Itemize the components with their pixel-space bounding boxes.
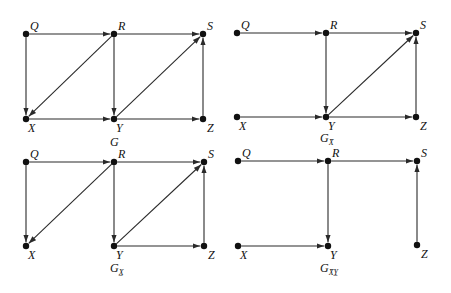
node-label-s: S <box>207 19 213 33</box>
node-s <box>200 31 206 37</box>
node-label-q: Q <box>242 146 251 160</box>
edge-r-to-x <box>29 164 112 243</box>
panel-title: GX̄Y̲ <box>320 261 340 277</box>
node-label-x: X <box>238 119 247 133</box>
node-label-y: Y <box>116 248 124 262</box>
node-label-z: Z <box>420 119 427 133</box>
node-s <box>413 30 419 36</box>
node-r <box>325 158 331 164</box>
node-label-z: Z <box>207 121 214 135</box>
edge-y-to-s <box>328 36 413 115</box>
node-q <box>235 158 241 164</box>
panel-g-xbaryunderline: QRSXYZGX̄Y̲ <box>235 146 428 277</box>
panel-g: QRSXYZG <box>23 19 214 149</box>
node-label-r: R <box>117 19 126 33</box>
node-label-z: Z <box>208 248 215 262</box>
node-s <box>414 158 420 164</box>
node-r <box>111 31 117 37</box>
panel-g-xunderline: QRSXYZGX̲ <box>23 147 215 277</box>
diagram-canvas: QRSXYZGQRSXYZGX̄QRSXYZGX̲QRSXYZGX̄Y̲ <box>0 0 451 293</box>
node-label-s: S <box>421 146 427 160</box>
panel-title: GX̄ <box>320 131 335 147</box>
node-q <box>23 159 29 165</box>
edge-y-to-s <box>116 165 201 244</box>
node-label-s: S <box>208 147 214 161</box>
node-label-x: X <box>239 248 248 262</box>
node-z <box>414 242 420 248</box>
node-z <box>200 116 206 122</box>
node-label-q: Q <box>241 18 250 32</box>
node-label-r: R <box>117 147 126 161</box>
node-label-y: Y <box>328 119 336 133</box>
node-q <box>23 31 29 37</box>
node-q <box>234 30 240 36</box>
node-r <box>323 30 329 36</box>
node-z <box>201 243 207 249</box>
panel-title: GX̲ <box>110 261 125 277</box>
node-label-q: Q <box>30 147 39 161</box>
node-label-s: S <box>420 18 426 32</box>
node-s <box>201 159 207 165</box>
node-label-y: Y <box>330 248 338 262</box>
node-label-r: R <box>331 146 340 160</box>
node-label-x: X <box>27 121 36 135</box>
node-label-x: X <box>27 248 36 262</box>
edge-r-to-x <box>29 36 112 116</box>
node-label-q: Q <box>30 19 39 33</box>
node-r <box>111 159 117 165</box>
node-label-r: R <box>329 18 338 32</box>
node-z <box>413 114 419 120</box>
node-label-y: Y <box>116 121 124 135</box>
panel-g-xbar: QRSXYZGX̄ <box>234 18 427 147</box>
node-label-z: Z <box>421 247 428 261</box>
edge-y-to-s <box>116 37 200 117</box>
